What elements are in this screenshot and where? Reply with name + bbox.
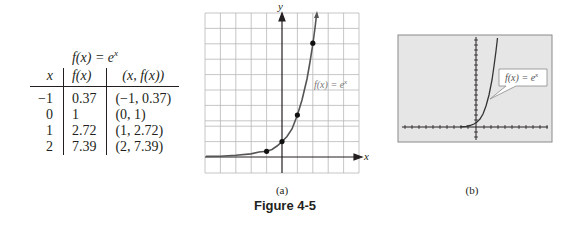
y-axis-arrow-icon [279, 13, 285, 21]
figure-title: Figure 4-5 [230, 198, 340, 213]
graph-a-points [264, 41, 315, 154]
caption-b: (b) [455, 184, 489, 196]
graph-b-screen [398, 35, 552, 142]
graph-b-curve-label: f(x) = ex [505, 71, 539, 84]
y-axis-label: y [277, 0, 283, 12]
graph-a-curve-label: f(x) = ex [314, 78, 348, 91]
x-axis-arrow-icon [354, 154, 362, 160]
graph-a-axes [205, 13, 362, 173]
caption-a: (a) [265, 184, 299, 196]
curve-arrow-icon [314, 11, 319, 18]
x-axis-label: x [363, 150, 369, 162]
graph-a-curve [206, 15, 317, 156]
